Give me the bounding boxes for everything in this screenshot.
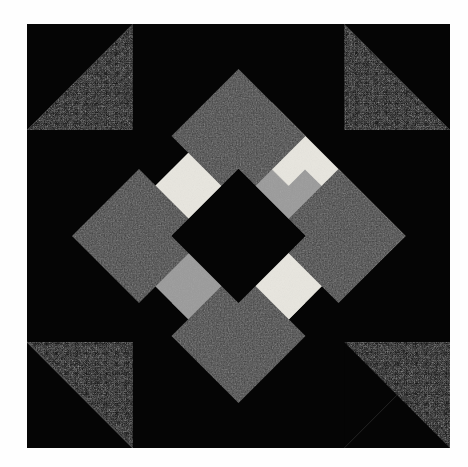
quilt-block-frame <box>27 24 450 448</box>
corner-unit-top-right <box>344 24 450 130</box>
corner-unit-top-left <box>27 24 133 130</box>
corner-unit-bottom-right <box>344 342 450 448</box>
quilt-block-canvas <box>27 24 450 448</box>
corner-unit-bottom-left <box>27 342 133 448</box>
quilt-block-image <box>0 0 468 467</box>
